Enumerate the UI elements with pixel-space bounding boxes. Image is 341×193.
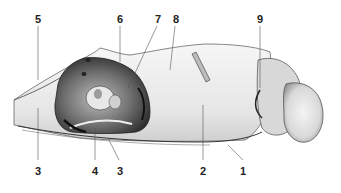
callout-label-3b: 3 bbox=[117, 166, 123, 177]
callout-label-7: 7 bbox=[155, 14, 161, 25]
callout-label-8: 8 bbox=[173, 14, 179, 25]
callout-label-4: 4 bbox=[92, 166, 98, 177]
callout-label-6: 6 bbox=[117, 14, 123, 25]
bone-illustration: 5678934321 bbox=[0, 0, 341, 193]
callout-label-5: 5 bbox=[35, 14, 41, 25]
articular-head bbox=[256, 58, 323, 142]
callout-label-1: 1 bbox=[240, 166, 246, 177]
leader-line-1 bbox=[228, 145, 243, 160]
callout-label-9: 9 bbox=[257, 14, 263, 25]
bone-drawing bbox=[0, 0, 341, 193]
callout-label-2: 2 bbox=[200, 166, 206, 177]
callout-label-3a: 3 bbox=[35, 166, 41, 177]
